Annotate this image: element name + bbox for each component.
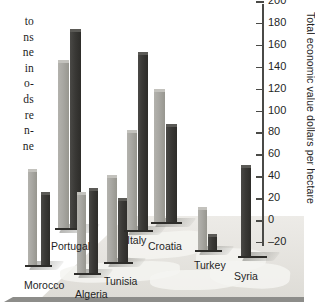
axis-tick <box>256 242 264 244</box>
bar-body <box>198 209 207 250</box>
bar-cap <box>89 188 98 191</box>
left-text-line: o- <box>0 76 34 92</box>
bar-body <box>241 167 251 256</box>
axis-tick-label: 180 <box>268 16 286 28</box>
axis-tick-label: 20 <box>268 191 280 203</box>
axis-tick-label: 120 <box>268 82 286 94</box>
value-axis-line <box>262 4 264 246</box>
category-label-turkey: Turkey <box>194 259 226 271</box>
bar-body <box>138 54 148 230</box>
bar-cap <box>77 192 86 195</box>
bar-morocco-light <box>28 171 37 265</box>
bar-cap <box>208 234 217 237</box>
bar-baseline-mark <box>151 222 182 224</box>
bar-algeria-light <box>77 194 86 273</box>
left-text-line: in <box>0 61 34 77</box>
bar-body <box>28 171 37 265</box>
bar-cap <box>70 29 81 32</box>
axis-tick-label: 140 <box>268 60 286 72</box>
category-label-croatia: Croatia <box>148 240 182 252</box>
bar-turkey-dark <box>208 236 217 250</box>
bar-cap <box>28 169 37 172</box>
axis-tick <box>256 176 264 178</box>
axis-tick <box>256 220 264 222</box>
bar-cap <box>41 192 50 195</box>
bar-algeria-dark <box>89 190 98 273</box>
bar-cap <box>198 207 207 210</box>
bar-turkey-light <box>198 209 207 250</box>
left-text-line: to <box>0 14 34 30</box>
bar-body <box>77 194 86 273</box>
bar-syria-dark <box>241 167 251 256</box>
map-ground-edge <box>4 297 304 302</box>
bar-baseline-mark <box>74 273 101 275</box>
axis-tick-label: –20 <box>268 235 286 247</box>
bar-cap <box>154 89 165 92</box>
bar-cap <box>107 175 117 178</box>
bar-italy-light <box>127 132 137 230</box>
left-text-line: ds <box>0 92 34 108</box>
bar-baseline-mark <box>124 230 153 232</box>
bar-body <box>58 62 69 228</box>
bar-body <box>166 126 177 222</box>
bar-baseline-mark <box>195 250 222 252</box>
bar-morocco-dark <box>41 194 50 265</box>
bar-croatia-light <box>154 91 165 222</box>
axis-tick-label: 160 <box>268 38 286 50</box>
axis-tick <box>256 198 264 200</box>
left-text-line: ns <box>0 30 34 46</box>
bar-body <box>107 177 117 262</box>
bar-cap <box>58 60 69 63</box>
axis-tick <box>256 132 264 134</box>
axis-tick <box>256 67 264 69</box>
chart-figure: to ns ne in o- ds re n- ne MoroccoPortug… <box>0 0 315 305</box>
axis-tick <box>256 45 264 47</box>
bar-baseline-mark <box>238 256 267 258</box>
axis-tick-label: 40 <box>268 169 280 181</box>
bar-tunisia-light <box>107 177 117 262</box>
bar-body <box>41 194 50 265</box>
bar-body <box>208 236 217 250</box>
bar-body <box>154 91 165 222</box>
left-text-line: ne <box>0 45 34 61</box>
left-text-line: n- <box>0 123 34 139</box>
axis-tick <box>256 23 264 25</box>
axis-tick-label: 100 <box>268 104 286 116</box>
bar-croatia-dark <box>166 126 177 222</box>
axis-tick <box>256 111 264 113</box>
axis-tick-label: 0 <box>268 213 274 225</box>
left-text-line: re <box>0 108 34 124</box>
value-axis-title: Total economic value dollars per hectare <box>305 12 315 204</box>
bar-portugal-light <box>58 62 69 228</box>
category-label-morocco: Morocco <box>24 279 64 291</box>
axis-tick-label: 60 <box>268 147 280 159</box>
category-label-tunisia: Tunisia <box>104 275 137 287</box>
bar-italy-dark <box>138 54 148 230</box>
map-landmass <box>150 270 240 290</box>
axis-tick-label: 80 <box>268 125 280 137</box>
axis-tick <box>256 1 264 3</box>
axis-tick <box>256 154 264 156</box>
bar-cap <box>241 165 251 168</box>
category-label-algeria: Algeria <box>75 288 108 300</box>
category-label-syria: Syria <box>234 270 258 282</box>
category-label-portugal: Portugal <box>51 240 90 252</box>
axis-tick-label: 200 <box>268 0 286 6</box>
bar-cap <box>138 52 148 55</box>
axis-tick <box>256 89 264 91</box>
bar-cap <box>166 124 177 127</box>
left-text-column: to ns ne in o- ds re n- ne <box>0 14 34 154</box>
bar-baseline-mark <box>104 262 133 264</box>
bar-body <box>127 132 137 230</box>
bar-body <box>89 190 98 273</box>
bar-cap <box>127 130 137 133</box>
category-label-italy: Italy <box>127 234 146 246</box>
bar-baseline-mark <box>25 265 52 267</box>
left-text-line: ne <box>0 139 34 155</box>
